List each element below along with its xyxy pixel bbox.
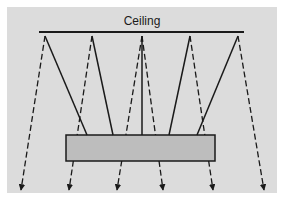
diagram-canvas: Ceiling [0,0,281,201]
light-reflection-diagram: Ceiling [0,0,281,201]
light-fixture [66,135,215,161]
ceiling-label: Ceiling [124,14,161,28]
